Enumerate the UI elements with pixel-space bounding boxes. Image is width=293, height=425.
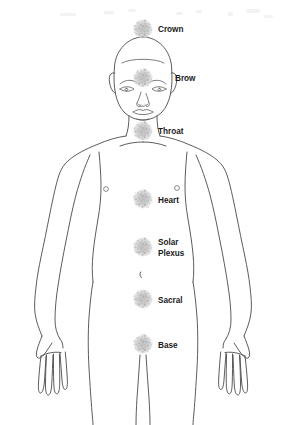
chakra-speckle <box>137 25 138 26</box>
chakra-speckle <box>137 295 138 296</box>
chakra-speckle <box>141 203 142 204</box>
chakra-speckle <box>138 197 140 199</box>
chakra-speckle <box>134 298 136 300</box>
chakra-node-sacral[interactable] <box>133 289 153 309</box>
chakra-speckle <box>142 138 144 140</box>
chakra-speckle <box>137 337 139 339</box>
chakra-speckle <box>144 125 146 127</box>
chakra-speckle <box>144 249 145 250</box>
chakra-speckle <box>138 33 140 35</box>
chakra-speckle <box>140 248 142 250</box>
chakra-speckle <box>148 297 150 299</box>
chakra-speckle <box>134 77 136 79</box>
nipple-left-marker <box>104 187 109 192</box>
chakra-speckle <box>144 68 146 70</box>
chakra-speckle <box>144 28 145 29</box>
chakra-speckle <box>148 193 149 194</box>
chakra-speckle <box>147 132 149 134</box>
chakra-speckle <box>138 342 140 344</box>
chakra-speckle <box>137 127 138 128</box>
chakra-speckle <box>148 82 150 84</box>
chakra-speckle <box>144 252 146 254</box>
chakra-speckle <box>144 349 146 351</box>
chakra-speckle <box>138 135 140 137</box>
chakra-diagram-page: CrownBrowThroatHeartSolarPlexusSacralBas… <box>0 0 293 425</box>
chakra-speckle <box>141 191 142 192</box>
chakra-node-crown[interactable] <box>133 19 153 39</box>
chakra-speckle <box>145 196 147 198</box>
chakra-speckle <box>147 36 148 37</box>
chakra-node-solar-plexus[interactable] <box>133 237 153 257</box>
chakra-speckle <box>142 206 144 208</box>
chakra-speckle <box>145 244 147 246</box>
chakra-speckle <box>141 336 142 337</box>
chakra-node-brow[interactable] <box>133 68 153 88</box>
chakra-speckle <box>137 240 139 242</box>
chakra-speckle <box>135 203 137 205</box>
chakra-speckle <box>137 132 138 133</box>
chakra-speckle <box>140 242 142 244</box>
chakra-speckle <box>138 303 140 305</box>
chakra-speckle <box>147 254 148 255</box>
chakra-speckle <box>147 30 149 32</box>
chakra-speckle <box>134 343 136 345</box>
chakra-speckle <box>148 241 149 242</box>
chakra-speckle <box>137 195 138 196</box>
chakra-speckle <box>137 200 138 201</box>
chakra-label-line-2: Plexus <box>158 249 185 258</box>
chakra-speckle <box>141 123 142 124</box>
chakra-speckle <box>144 304 146 306</box>
chakra-label-brow: Brow <box>175 74 196 83</box>
chakra-speckle <box>140 73 142 75</box>
chakra-node-base[interactable] <box>133 334 153 354</box>
chakra-speckle <box>138 297 140 299</box>
chakra-speckle <box>141 82 142 83</box>
chakra-speckle <box>147 85 148 86</box>
chakra-speckle <box>141 251 142 252</box>
chakra-speckle <box>134 246 136 248</box>
chakra-speckle <box>138 348 140 350</box>
chakra-speckle <box>141 303 142 304</box>
chakra-speckle <box>144 338 146 340</box>
chakra-speckle <box>148 348 150 350</box>
chakra-speckle <box>144 201 145 202</box>
chakra-speckle <box>148 129 150 131</box>
chakra-speckle <box>134 28 136 30</box>
chakra-speckle <box>144 198 145 199</box>
chakra-speckle <box>141 21 142 22</box>
chakra-speckle <box>140 79 142 81</box>
chakra-speckle <box>142 195 144 197</box>
chakra-speckle <box>137 292 139 294</box>
chakra-speckle <box>142 85 144 87</box>
chakra-speckle <box>137 79 138 80</box>
chakra-label-sacral: Sacral <box>158 296 183 305</box>
chakra-speckle <box>144 343 145 344</box>
chakra-label-line-1: Solar <box>158 238 179 247</box>
chakra-speckle <box>134 130 136 132</box>
chakra-speckle <box>135 82 137 84</box>
chakra-speckle <box>137 248 138 249</box>
chakra-speckle <box>147 306 148 307</box>
chakra-speckle <box>150 78 151 79</box>
chakra-speckle <box>135 251 137 253</box>
chakra-speckle <box>140 24 142 26</box>
chakra-speckle <box>144 237 146 239</box>
chakra-label-solar-plexus: SolarPlexus <box>158 238 185 258</box>
chakra-speckle <box>135 33 137 35</box>
chakra-node-heart[interactable] <box>133 189 153 209</box>
chakra-speckle <box>148 125 149 126</box>
chakra-speckle <box>150 29 151 30</box>
chakra-speckle <box>145 341 147 343</box>
chakra-node-throat[interactable] <box>133 121 153 141</box>
chakra-speckle <box>147 351 148 352</box>
chakra-speckle <box>144 289 146 291</box>
chakra-speckle <box>144 301 145 302</box>
chakra-speckle <box>138 129 140 131</box>
chakra-speckle <box>142 306 144 308</box>
chakra-speckle <box>147 300 149 302</box>
chakra-speckle <box>150 247 151 248</box>
chakra-speckle <box>144 83 146 85</box>
chakra-speckle <box>142 74 144 76</box>
chakra-speckle <box>138 251 140 253</box>
chakra-speckle <box>148 303 150 305</box>
